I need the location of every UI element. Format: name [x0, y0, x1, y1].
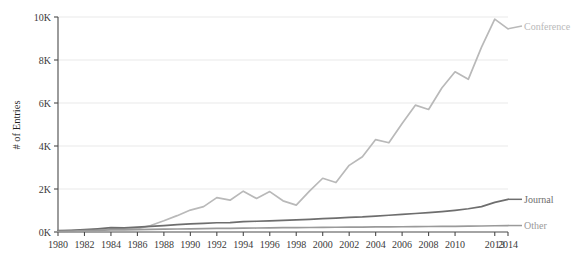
- y-tick-label: 2K: [39, 184, 52, 195]
- x-tick-label: 2014: [498, 239, 518, 250]
- x-tick-label: 1984: [101, 239, 121, 250]
- x-tick-label: 1992: [207, 239, 227, 250]
- series-labels: ConferenceJournalOther: [524, 21, 571, 232]
- x-tick-label: 1996: [260, 239, 280, 250]
- y-tick-label: 4K: [39, 141, 52, 152]
- x-tick-label: 2008: [419, 239, 439, 250]
- x-tick-label: 2002: [339, 239, 359, 250]
- x-tick-label: 1986: [127, 239, 147, 250]
- y-tick-label: 8K: [39, 55, 52, 66]
- x-tick-label: 1982: [74, 239, 94, 250]
- x-tick-label: 1988: [154, 239, 174, 250]
- x-tick-label: 1990: [180, 239, 200, 250]
- series-label-other: Other: [524, 220, 547, 231]
- x-axis: [58, 232, 508, 236]
- y-axis-title: # of Entries: [11, 101, 22, 150]
- x-tick-label: 1980: [48, 239, 68, 250]
- y-tick-label: 0K: [39, 227, 52, 238]
- x-tick-label: 1994: [233, 239, 253, 250]
- y-tick-label: 10K: [34, 12, 52, 23]
- y-axis: [54, 17, 58, 232]
- x-tick-label: 2004: [366, 239, 386, 250]
- x-tick-label: 2006: [392, 239, 412, 250]
- line-chart: 0K2K4K6K8K10K 19801982198419861988199019…: [0, 0, 578, 269]
- series-line-conference: [58, 19, 508, 231]
- grid-lines: [58, 17, 508, 189]
- y-tick-label: 6K: [39, 98, 52, 109]
- data-series: [58, 19, 522, 231]
- y-tick-labels: 0K2K4K6K8K10K: [34, 12, 52, 238]
- x-tick-label: 2000: [313, 239, 333, 250]
- x-tick-label: 2010: [445, 239, 465, 250]
- series-leader-conference: [508, 26, 522, 29]
- x-tick-labels: 1980198219841986198819901992199419961998…: [48, 239, 518, 250]
- x-tick-label: 1998: [286, 239, 306, 250]
- chart-container: 0K2K4K6K8K10K 19801982198419861988199019…: [0, 0, 578, 269]
- series-label-journal: Journal: [524, 194, 554, 205]
- series-label-conference: Conference: [524, 21, 571, 32]
